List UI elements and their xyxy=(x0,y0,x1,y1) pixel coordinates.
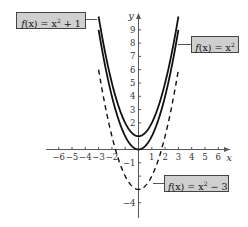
label-x-squared: f(x) = x2 xyxy=(191,36,239,53)
x-tick-label: 3 xyxy=(176,152,181,162)
constant-term: + 1 xyxy=(61,18,81,29)
x-tick-label: −5 xyxy=(66,152,79,162)
equals-x: = x xyxy=(212,42,231,53)
x-tick-label: −4 xyxy=(79,152,92,162)
x-tick-label: 5 xyxy=(202,152,207,162)
x-tick-label: 1 xyxy=(149,152,154,162)
y-tick-label: 3 xyxy=(130,105,135,115)
x-tick-label: 6 xyxy=(216,152,221,162)
exponent: 2 xyxy=(231,41,235,48)
y-tick-label: −1 xyxy=(123,158,136,168)
x-tick-label: 4 xyxy=(189,152,194,162)
constant-term: − 3 xyxy=(208,181,228,192)
equals-x: = x xyxy=(184,181,203,192)
label-x-squared-plus-1: f(x) = x2 + 1 xyxy=(16,12,86,29)
y-tick-label: −4 xyxy=(123,198,136,208)
y-tick-label: 6 xyxy=(130,65,135,75)
x-axis-label: x xyxy=(226,152,232,163)
x-tick-label: −6 xyxy=(52,152,65,162)
function-arg: (x) xyxy=(25,18,38,29)
y-tick-label: 7 xyxy=(130,51,135,61)
equals-x: = x xyxy=(38,18,57,29)
label-x-squared-minus-3: f(x) = x2 − 3 xyxy=(164,175,229,192)
y-tick-label: 2 xyxy=(130,118,135,128)
y-tick-label: 8 xyxy=(130,38,135,48)
function-arg: (x) xyxy=(172,181,185,192)
y-tick-label: 9 xyxy=(130,25,135,35)
function-arg: (x) xyxy=(199,42,212,53)
y-tick-label: 5 xyxy=(130,78,135,88)
x-tick-label: 2 xyxy=(162,152,167,162)
y-tick-label: 4 xyxy=(130,91,135,101)
y-axis-label: y xyxy=(127,10,134,21)
y-axis-arrow-icon xyxy=(136,13,141,19)
x-tick-label: −3 xyxy=(92,152,105,162)
